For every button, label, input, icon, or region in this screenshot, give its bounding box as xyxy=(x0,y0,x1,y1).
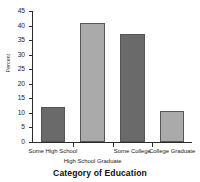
bar-chart: Percent 051015202530354045 Some High Sch… xyxy=(0,0,200,182)
x-axis-title: Category of Education xyxy=(0,168,200,178)
x-tick-label: Some College xyxy=(114,148,151,154)
y-tick-label: 15 xyxy=(18,94,25,101)
y-axis-title: Percent xyxy=(5,38,11,88)
y-tick-label: 25 xyxy=(18,65,25,72)
x-tick xyxy=(152,143,153,147)
y-tick-label: 5 xyxy=(21,123,25,130)
bar xyxy=(41,107,66,142)
y-tick: 0 xyxy=(29,142,32,143)
y-tick: 20 xyxy=(29,84,32,85)
x-tick-label: Some High School xyxy=(28,148,77,154)
y-tick: 30 xyxy=(29,55,32,56)
y-tick: 5 xyxy=(29,127,32,128)
x-tick-label: High School Graduate xyxy=(64,158,122,164)
y-tick: 35 xyxy=(29,40,32,41)
y-tick: 45 xyxy=(29,11,32,12)
y-tick-label: 45 xyxy=(18,7,25,14)
y-tick-label: 30 xyxy=(18,51,25,58)
y-tick: 15 xyxy=(29,98,32,99)
x-tick-label: College Graduate xyxy=(149,148,195,154)
bar xyxy=(160,111,185,142)
y-tick: 10 xyxy=(29,113,32,114)
x-axis-tick-labels: Some High SchoolHigh School GraduateSome… xyxy=(0,148,200,170)
x-tick xyxy=(113,143,114,147)
x-tick xyxy=(73,143,74,147)
y-tick-label: 35 xyxy=(18,36,25,43)
bar xyxy=(120,34,145,142)
bar-series xyxy=(33,11,192,142)
y-tick: 40 xyxy=(29,26,32,27)
y-tick-label: 20 xyxy=(18,80,25,87)
plot-area: 051015202530354045 xyxy=(32,11,192,143)
y-tick-label: 10 xyxy=(18,109,25,116)
y-tick-label: 0 xyxy=(21,138,25,145)
y-tick: 25 xyxy=(29,69,32,70)
bar xyxy=(80,23,105,142)
y-tick-label: 40 xyxy=(18,22,25,29)
